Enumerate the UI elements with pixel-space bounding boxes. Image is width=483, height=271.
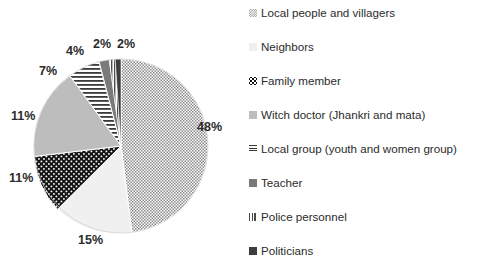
pie-chart-figure: 48% 15% 11% 11% 7% 4% 2% 2% Local people… [0,0,483,271]
swatch-near-black-solid-icon [249,247,257,255]
legend-item-family-member[interactable]: Family member [249,73,341,89]
swatch-dark-with-white-dots-icon [249,77,257,85]
legend-item-neighbors[interactable]: Neighbors [249,39,314,55]
legend-label: Police personnel [261,211,347,223]
pie-label-politicians: 2% [117,38,135,51]
pie-plot-area: 48% 15% 11% 11% 7% 4% 2% 2% [0,0,240,271]
legend-item-witch-doctor[interactable]: Witch doctor (Jhankri and mata) [249,107,425,123]
legend-label: Family member [261,75,341,87]
pie-label-local-people-and-villagers: 48% [197,121,222,134]
swatch-horizontal-stripes-icon [249,145,257,153]
legend-label: Local group (youth and women group) [261,143,457,155]
legend-item-local-people-and-villagers[interactable]: Local people and villagers [249,5,395,21]
chart-legend: Local people and villagers Neighbors Fam… [249,0,483,271]
legend-item-police-personnel[interactable]: Police personnel [249,209,347,225]
pie-slice-local-people-and-villagers[interactable] [121,59,208,232]
swatch-fine-checker-dots-icon [249,9,257,17]
legend-label: Neighbors [261,41,314,53]
swatch-mid-gray-solid-icon [249,111,257,119]
pie-label-witch-doctor: 11% [11,110,35,123]
pie-label-local-group: 7% [39,65,57,78]
legend-label: Witch doctor (Jhankri and mata) [261,109,425,121]
legend-item-politicians[interactable]: Politicians [249,243,313,259]
swatch-dark-gray-solid-icon [249,179,257,187]
legend-label: Local people and villagers [261,7,395,19]
swatch-light-solid-icon [249,43,257,51]
legend-label: Politicians [261,245,313,257]
pie-label-family-member: 11% [9,172,33,185]
legend-item-teacher[interactable]: Teacher [249,175,302,191]
pie-label-teacher: 4% [66,45,84,58]
swatch-vertical-stripes-icon [249,213,257,221]
legend-item-local-group[interactable]: Local group (youth and women group) [249,141,457,157]
pie-label-neighbors: 15% [78,234,103,247]
pie-label-police-personnel: 2% [93,38,111,51]
legend-label: Teacher [261,177,302,189]
